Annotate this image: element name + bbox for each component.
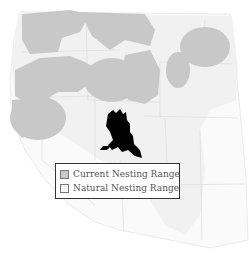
- legend-item-current: Current Nesting Range: [60, 167, 175, 181]
- legend-item-natural: Natural Nesting Range: [60, 181, 175, 195]
- map-legend: Current Nesting Range Natural Nesting Ra…: [55, 163, 180, 199]
- legend-label-natural: Natural Nesting Range: [73, 183, 179, 193]
- nesting-range-map: Current Nesting Range Natural Nesting Ra…: [0, 0, 249, 254]
- legend-label-current: Current Nesting Range: [73, 169, 180, 179]
- map-canvas: [0, 0, 249, 254]
- current-range-swatch: [60, 170, 69, 179]
- natural-range-swatch: [60, 184, 69, 193]
